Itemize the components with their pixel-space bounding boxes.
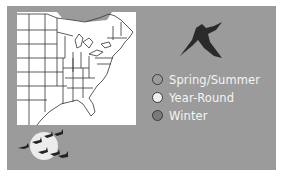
legend-label: Year-Round	[169, 91, 234, 105]
year-round-swatch-icon	[152, 92, 163, 103]
legend: Spring/Summer Year-Round Winter	[152, 71, 260, 125]
legend-label: Winter	[169, 109, 208, 123]
legend-item-winter: Winter	[152, 107, 260, 124]
legend-label: Spring/Summer	[169, 73, 260, 87]
legend-item-spring-summer: Spring/Summer	[152, 71, 260, 88]
bird-icon	[178, 16, 228, 66]
winter-swatch-icon	[152, 110, 163, 121]
us-east-map-icon	[17, 12, 136, 125]
range-map	[17, 12, 136, 125]
legend-item-year-round: Year-Round	[152, 89, 260, 106]
flock-moon-icon	[14, 128, 80, 160]
spring-summer-swatch-icon	[152, 74, 163, 85]
